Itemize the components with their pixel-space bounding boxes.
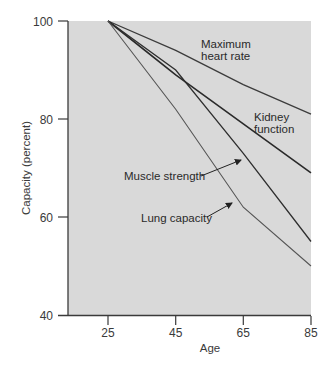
label-kidney-function: function	[254, 123, 294, 135]
y-ticks: 100 80 60 40	[33, 15, 68, 323]
y-tick-label: 60	[40, 211, 54, 225]
y-tick-label: 40	[40, 309, 54, 323]
label-maximum-heart-rate: Maximum	[201, 38, 251, 50]
label-lung-capacity: Lung capacity	[141, 212, 212, 224]
plot-area	[68, 21, 311, 315]
label-kidney-function: Kidney	[254, 111, 289, 123]
x-tick-label: 65	[237, 326, 251, 340]
x-tick-label: 45	[169, 326, 183, 340]
label-maximum-heart-rate: heart rate	[201, 50, 250, 62]
x-tick-label: 25	[101, 326, 115, 340]
line-chart: 100 80 60 40 25 45 65 85 Age Capacity (p…	[0, 0, 334, 369]
x-tick-label: 85	[304, 326, 318, 340]
x-axis-label: Age	[200, 342, 220, 354]
y-axis-label: Capacity (percent)	[20, 121, 32, 215]
x-ticks: 25 45 65 85	[101, 316, 318, 340]
label-muscle-strength: Muscle strength	[124, 170, 205, 182]
y-tick-label: 80	[40, 113, 54, 127]
y-tick-label: 100	[33, 15, 53, 29]
